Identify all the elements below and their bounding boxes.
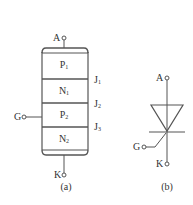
layer-p2-sub: 2 — [65, 114, 68, 120]
pnpn-structure — [22, 36, 88, 177]
caption-a: (a) — [60, 182, 71, 192]
layer-n1-sub: 1 — [66, 90, 69, 96]
layer-p1: P1 — [60, 60, 69, 72]
symbol-cathode-label: K — [156, 159, 163, 169]
junction-j3-sub: 3 — [98, 126, 101, 132]
symbol-anode-terminal-icon — [165, 76, 169, 80]
symbol-gate-terminal-icon — [142, 145, 146, 149]
cathode-terminal-icon — [62, 173, 66, 177]
layer-p2: P2 — [60, 110, 69, 122]
junction-j3: J3 — [94, 122, 101, 134]
symbol-gate-lead — [146, 133, 166, 147]
layer-p1-sub: 1 — [65, 64, 68, 70]
symbol-anode-label: A — [156, 73, 163, 83]
layer-n1: N1 — [59, 86, 69, 98]
junction-j1-sub: 1 — [98, 79, 101, 85]
junction-j2: J2 — [94, 99, 101, 111]
symbol-cathode-terminal-icon — [165, 162, 169, 166]
symbol-gate-label: G — [133, 142, 140, 152]
caption-b: (b) — [161, 182, 173, 192]
anode-terminal-icon — [62, 36, 66, 40]
junction-j1: J1 — [94, 75, 101, 87]
thyristor-symbol — [142, 76, 185, 166]
layer-n2-sub: 2 — [66, 138, 69, 144]
bottom-contact — [42, 150, 88, 155]
anode-label: A — [53, 33, 60, 43]
junction-j2-sub: 2 — [98, 103, 101, 109]
gate-terminal-icon — [22, 115, 26, 119]
top-contact — [42, 48, 88, 53]
gate-label: G — [14, 112, 21, 122]
cathode-label: K — [54, 170, 61, 180]
layer-n2: N2 — [59, 134, 69, 146]
thyristor-diagram: A G K P1 N1 P2 N2 J1 J2 J3 (a) A G K (b) — [0, 0, 193, 205]
